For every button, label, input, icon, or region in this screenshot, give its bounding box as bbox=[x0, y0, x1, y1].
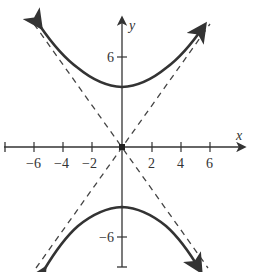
x-tick-label: 4 bbox=[177, 156, 184, 171]
x-tick-label: 6 bbox=[206, 156, 213, 171]
x-axis-label: x bbox=[235, 128, 243, 143]
origin-marker bbox=[119, 144, 125, 150]
y-tick-label-6: 6 bbox=[107, 50, 114, 65]
x-tick-label: −4 bbox=[54, 156, 69, 171]
hyperbola-plot: x y −6 −4 −2 2 4 6 6 −6 bbox=[0, 0, 256, 272]
y-axis-label: y bbox=[127, 18, 136, 33]
x-tick-label: −6 bbox=[26, 156, 41, 171]
x-tick-label: 2 bbox=[148, 156, 155, 171]
x-tick-label: −2 bbox=[82, 156, 97, 171]
y-tick-label-neg6: −6 bbox=[99, 230, 114, 245]
